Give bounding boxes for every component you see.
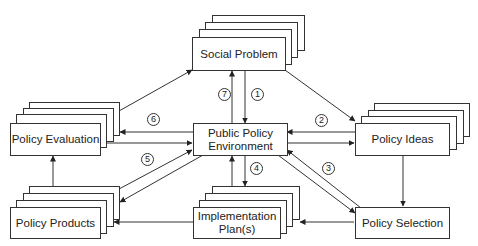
step-4-badge: 4 — [250, 162, 263, 175]
node-social-problem: Social Problem — [192, 37, 286, 71]
node-label-line1: Implementation — [198, 210, 277, 223]
node-label: Social Problem — [200, 48, 277, 61]
node-policy-products: Policy Products — [10, 207, 101, 239]
step-7-badge: 7 — [218, 88, 231, 101]
step-3-badge: 3 — [322, 162, 335, 175]
node-label-line2: Plan(s) — [219, 223, 255, 236]
policy-process-diagram: Social Problem Public Policy Environment… — [0, 0, 478, 246]
node-policy-selection: Policy Selection — [355, 207, 450, 239]
node-label: Policy Products — [16, 217, 95, 230]
node-policy-ideas: Policy Ideas — [355, 123, 450, 156]
node-label-line1: Public Policy — [208, 127, 273, 140]
node-policy-evaluation: Policy Evaluation — [10, 123, 101, 156]
node-label: Policy Evaluation — [12, 133, 100, 146]
step-1-badge: 1 — [251, 88, 264, 101]
node-implementation-plans: Implementation Plan(s) — [193, 207, 281, 239]
node-label-line2: Environment — [208, 140, 273, 153]
node-label: Policy Ideas — [371, 133, 433, 146]
step-5-badge: 5 — [141, 153, 154, 166]
node-public-policy-environment: Public Policy Environment — [193, 123, 288, 156]
step-2-badge: 2 — [315, 114, 328, 127]
node-label: Policy Selection — [362, 217, 443, 230]
step-6-badge: 6 — [147, 113, 160, 126]
